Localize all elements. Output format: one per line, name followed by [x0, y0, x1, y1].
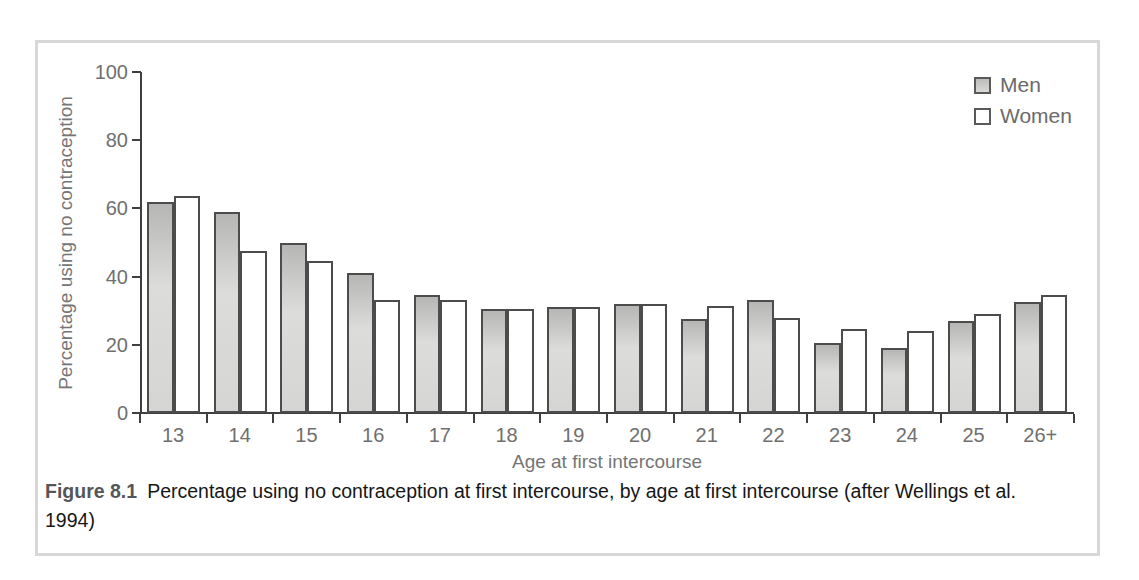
x-tick-label-18: 18 — [474, 424, 540, 447]
x-tick — [873, 414, 875, 423]
y-tick — [132, 139, 141, 141]
y-axis-line — [140, 72, 142, 413]
bar-men-21 — [681, 319, 708, 413]
x-tick — [539, 414, 541, 423]
x-axis-title: Age at first intercourse — [140, 451, 1074, 473]
y-tick-label: 60 — [78, 198, 128, 218]
bar-men-16 — [347, 273, 374, 413]
x-tick — [406, 414, 408, 423]
x-tick-label-22: 22 — [740, 424, 806, 447]
legend-label-women: Women — [1000, 104, 1072, 128]
bar-women-19 — [574, 307, 601, 413]
bar-men-23 — [814, 343, 841, 413]
bar-men-26+ — [1014, 302, 1041, 413]
x-tick-label-23: 23 — [807, 424, 873, 447]
x-tick-label-25: 25 — [941, 424, 1007, 447]
x-tick-label-14: 14 — [207, 424, 273, 447]
y-tick — [132, 276, 141, 278]
y-tick-label: 40 — [78, 267, 128, 287]
x-tick-label-24: 24 — [874, 424, 940, 447]
bar-women-26+ — [1041, 295, 1068, 413]
y-tick-label: 100 — [78, 62, 128, 82]
bar-women-22 — [774, 318, 801, 413]
legend-item-women: Women — [974, 104, 1072, 128]
x-tick — [272, 414, 274, 423]
y-tick-label: 20 — [78, 335, 128, 355]
x-tick — [1006, 414, 1008, 423]
x-tick — [739, 414, 741, 423]
x-tick-label-16: 16 — [340, 424, 406, 447]
legend-label-men: Men — [1000, 73, 1041, 97]
bar-women-15 — [307, 261, 334, 413]
y-tick — [132, 207, 141, 209]
legend: Men Women — [974, 73, 1072, 135]
y-tick — [132, 344, 141, 346]
x-tick — [1073, 414, 1075, 423]
figure-frame: Percentage using no contraception Age at… — [35, 40, 1100, 556]
bar-men-18 — [481, 309, 508, 413]
y-axis-title: Percentage using no contraception — [55, 73, 77, 413]
y-tick-label: 0 — [78, 403, 128, 423]
x-tick-label-19: 19 — [540, 424, 606, 447]
x-tick — [139, 414, 141, 423]
x-tick — [806, 414, 808, 423]
x-tick-label-13: 13 — [140, 424, 206, 447]
men-swatch-icon — [974, 77, 991, 94]
bar-men-19 — [547, 307, 574, 413]
x-tick-label-26+: 26+ — [1007, 424, 1073, 447]
legend-item-men: Men — [974, 73, 1072, 97]
x-tick — [339, 414, 341, 423]
bar-men-20 — [614, 304, 641, 413]
x-tick-label-21: 21 — [674, 424, 740, 447]
bar-women-24 — [907, 331, 934, 413]
x-tick — [940, 414, 942, 423]
x-tick-label-17: 17 — [407, 424, 473, 447]
bar-women-13 — [174, 196, 201, 413]
bar-women-23 — [841, 329, 868, 413]
x-tick — [206, 414, 208, 423]
bar-men-17 — [414, 295, 441, 413]
bar-women-16 — [374, 300, 401, 413]
bar-men-22 — [747, 300, 774, 413]
y-tick-label: 80 — [78, 130, 128, 150]
figure-caption: Figure 8.1Percentage using no contracept… — [45, 477, 1050, 535]
bar-women-21 — [707, 306, 734, 413]
bar-women-14 — [240, 251, 267, 413]
x-tick — [473, 414, 475, 423]
y-tick — [132, 71, 141, 73]
bar-women-18 — [507, 309, 534, 413]
bar-women-20 — [641, 304, 668, 413]
bar-women-25 — [974, 314, 1001, 413]
bar-women-17 — [440, 300, 467, 413]
women-swatch-icon — [974, 108, 991, 125]
x-tick-label-20: 20 — [607, 424, 673, 447]
x-tick-label-15: 15 — [273, 424, 339, 447]
bar-men-15 — [280, 243, 307, 414]
bar-men-25 — [948, 321, 975, 413]
figure-caption-text: Percentage using no contraception at fir… — [45, 480, 1016, 531]
x-tick — [606, 414, 608, 423]
bar-men-13 — [147, 202, 174, 413]
bar-men-24 — [881, 348, 908, 413]
bar-men-14 — [214, 212, 241, 413]
figure-number: Figure 8.1 — [45, 480, 137, 502]
x-tick — [673, 414, 675, 423]
